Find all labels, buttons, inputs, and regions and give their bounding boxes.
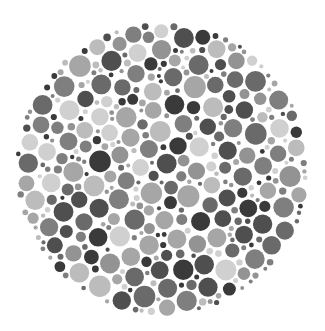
plate-dot — [216, 293, 222, 299]
plate-dot — [181, 65, 185, 69]
plate-dot — [91, 70, 96, 75]
plate-dot — [229, 226, 234, 231]
plate-dot — [47, 195, 57, 205]
plate-dot — [47, 237, 63, 253]
plate-dot — [288, 139, 305, 156]
plate-dot — [228, 233, 232, 237]
plate-dot — [235, 226, 253, 244]
plate-dot — [227, 71, 244, 88]
plate-dot — [136, 180, 140, 184]
plate-dot — [159, 79, 163, 83]
plate-dot — [144, 223, 155, 234]
dot-plate — [0, 0, 325, 331]
plate-dot — [266, 175, 271, 180]
plate-dot — [137, 203, 144, 210]
plate-dot — [155, 211, 173, 229]
plate-dot — [256, 198, 260, 202]
plate-dot — [253, 214, 272, 233]
plate-dot — [202, 197, 217, 212]
plate-dot — [302, 169, 306, 173]
plate-dot — [82, 160, 86, 164]
plate-dot — [124, 59, 131, 66]
plate-dot — [281, 112, 285, 116]
plate-dot — [148, 308, 155, 315]
plate-dot — [189, 235, 206, 252]
plate-dot — [129, 44, 147, 62]
plate-dot — [40, 218, 58, 236]
plate-dot — [273, 197, 293, 217]
plate-dot — [162, 232, 167, 237]
plate-dot — [139, 236, 158, 255]
plate-dot — [266, 107, 272, 113]
plate-dot — [148, 74, 155, 81]
plate-dot — [200, 119, 216, 135]
plate-dot — [215, 259, 236, 280]
plate-dot — [140, 140, 158, 158]
plate-dot — [179, 207, 184, 212]
plate-dot — [84, 175, 105, 196]
plate-dot — [262, 236, 281, 255]
plate-dot — [235, 218, 242, 225]
plate-dot — [122, 52, 127, 57]
plate-dot — [89, 39, 105, 55]
plate-dot — [134, 286, 156, 308]
plate-dot — [140, 309, 144, 313]
plate-dot — [110, 142, 115, 147]
plate-dot — [161, 144, 167, 150]
plate-dot — [223, 90, 236, 103]
plate-dot — [250, 117, 255, 122]
plate-dot — [51, 73, 57, 79]
plate-dot — [298, 204, 303, 209]
plate-dot — [219, 121, 224, 126]
plate-dot — [101, 96, 112, 107]
plate-dot — [144, 57, 157, 70]
plate-dot — [116, 140, 120, 144]
plate-dot — [238, 267, 251, 280]
plate-dot — [194, 275, 199, 280]
plate-dot — [228, 43, 236, 51]
plate-dot — [184, 56, 189, 61]
plate-dot — [210, 69, 214, 73]
plate-dot — [101, 222, 106, 227]
plate-dot — [16, 152, 21, 157]
plate-dot — [224, 119, 242, 137]
plate-dot — [270, 119, 289, 138]
plate-dot — [237, 188, 247, 198]
plate-dot — [55, 98, 60, 103]
plate-dot — [85, 172, 89, 176]
plate-dot — [169, 54, 181, 66]
plate-dot — [33, 95, 53, 115]
plate-dot — [65, 245, 81, 261]
plate-dot — [297, 211, 301, 215]
plate-dot — [60, 196, 64, 200]
plate-dot — [51, 114, 57, 120]
plate-dot — [113, 291, 131, 309]
plate-dot — [247, 55, 257, 65]
plate-dot — [127, 94, 138, 105]
plate-dot — [260, 149, 265, 154]
plate-dot — [291, 187, 306, 202]
plate-dot — [109, 110, 114, 115]
plate-dot — [42, 174, 61, 193]
plate-dot — [33, 116, 50, 133]
plate-dot — [263, 267, 267, 271]
plate-dot — [164, 68, 182, 86]
plate-dot — [58, 254, 64, 260]
plate-dot — [109, 189, 129, 209]
plate-dot — [142, 132, 149, 139]
plate-dot — [206, 161, 216, 171]
plate-dot — [122, 284, 128, 290]
plate-dot — [237, 141, 241, 145]
plate-dot — [157, 154, 177, 174]
plate-dot — [224, 105, 233, 114]
plate-dot — [110, 226, 130, 246]
plate-dot — [83, 109, 88, 114]
plate-dot — [176, 250, 185, 259]
plate-dot — [139, 108, 143, 112]
plate-dot — [69, 55, 91, 77]
plate-dot — [186, 133, 193, 140]
plate-dot — [44, 84, 50, 90]
plate-dot — [63, 162, 83, 182]
plate-dot — [164, 90, 170, 96]
plate-dot — [133, 307, 139, 313]
